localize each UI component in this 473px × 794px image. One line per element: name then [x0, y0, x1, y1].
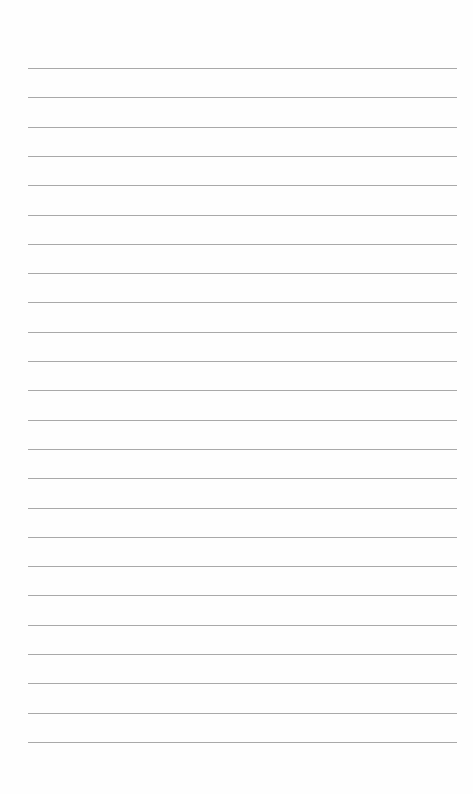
- lined-paper-page: [0, 0, 473, 794]
- ruled-line: [28, 742, 457, 743]
- ruled-line: [28, 127, 457, 128]
- ruled-line: [28, 244, 457, 245]
- ruled-line: [28, 390, 457, 391]
- ruled-line: [28, 595, 457, 596]
- ruled-line: [28, 156, 457, 157]
- ruled-line: [28, 508, 457, 509]
- ruled-line: [28, 537, 457, 538]
- ruled-line: [28, 215, 457, 216]
- ruled-line: [28, 302, 457, 303]
- ruled-line: [28, 97, 457, 98]
- ruled-line: [28, 185, 457, 186]
- ruled-line: [28, 654, 457, 655]
- ruled-line: [28, 68, 457, 69]
- ruled-line: [28, 273, 457, 274]
- ruled-line: [28, 683, 457, 684]
- ruled-line: [28, 361, 457, 362]
- ruled-line: [28, 449, 457, 450]
- ruled-line: [28, 420, 457, 421]
- ruled-line: [28, 625, 457, 626]
- ruled-line: [28, 566, 457, 567]
- ruled-line: [28, 478, 457, 479]
- ruled-line: [28, 332, 457, 333]
- ruled-line: [28, 713, 457, 714]
